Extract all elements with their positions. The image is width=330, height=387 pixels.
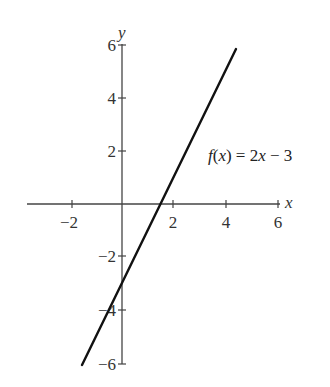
x-tick-label: 2 — [169, 213, 178, 232]
function-graph: −2 2 4 6 6 4 2 −2 −4 −6 x y f(x) = 2x − … — [0, 0, 330, 387]
y-tick-label: −4 — [98, 301, 117, 320]
x-tick-label: 4 — [222, 213, 231, 232]
function-label: f(x) = 2x − 3 — [208, 146, 292, 165]
x-axis-label: x — [284, 193, 293, 212]
y-axis-label: y — [116, 23, 126, 42]
function-line — [82, 49, 236, 365]
y-tick-label: 2 — [108, 142, 117, 161]
y-tick-label: −6 — [98, 355, 116, 374]
y-tick-label: −2 — [98, 247, 116, 266]
y-tick-label: 4 — [108, 89, 117, 108]
x-tick-label: 6 — [274, 213, 283, 232]
y-tick-label: 6 — [108, 36, 117, 55]
x-tick-label: −2 — [60, 213, 78, 232]
